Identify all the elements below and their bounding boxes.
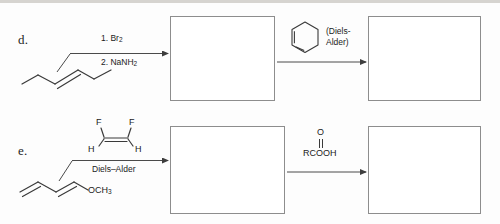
reagent-text-nanh2: 2. NaNH <box>101 57 134 67</box>
arrow-riser-e <box>59 161 72 181</box>
diels-alder-line2: Alder) <box>326 37 351 48</box>
structure-methoxybutadiene <box>20 182 88 197</box>
atom-label-f-left: F <box>96 117 102 127</box>
atom-label-f-right: F <box>129 117 135 127</box>
structure-cis-difluoroethene <box>99 128 133 146</box>
diels-alder-line1: (Diels- <box>326 26 351 37</box>
structure-cyclohexadiene <box>292 22 318 53</box>
reagent-text-br2: 1. Br <box>101 33 119 43</box>
structure-carbonyl-bond <box>320 139 323 148</box>
page-top-edge <box>0 0 500 3</box>
reagent-sub-nanh2: 2 <box>134 60 138 67</box>
atom-label-h-right: H <box>135 144 142 154</box>
answer-box-e-step1[interactable] <box>170 126 285 214</box>
och3-text: OCH <box>88 185 108 195</box>
structure-trans-3-hexene <box>22 70 111 89</box>
reagent-label-d-step1-above: 1. Br2 <box>101 34 123 44</box>
reagent-label-d-step2: (Diels- Alder) <box>326 26 351 47</box>
reagent-sub-br2: 2 <box>119 36 123 43</box>
problem-label-e: e. <box>18 143 27 159</box>
reagent-label-d-step1-below: 2. NaNH2 <box>101 58 137 68</box>
answer-box-d-step2[interactable] <box>368 16 481 101</box>
reagent-label-e-step1-below: Diels–Alder <box>92 165 135 175</box>
answer-box-e-step2[interactable] <box>368 126 481 214</box>
reagent-label-rcooh: RCOOH <box>303 148 337 158</box>
problem-label-d: d. <box>18 32 28 48</box>
arrow-riser-d <box>57 54 70 72</box>
atom-label-h-left: H <box>88 144 95 154</box>
atom-label-carbonyl-oxygen: O <box>317 127 324 137</box>
och3-sub: 3 <box>108 188 112 195</box>
worksheet-page: d. e. <box>0 0 500 224</box>
substituent-label-och3: OCH3 <box>88 185 112 195</box>
answer-box-d-step1[interactable] <box>170 16 275 101</box>
